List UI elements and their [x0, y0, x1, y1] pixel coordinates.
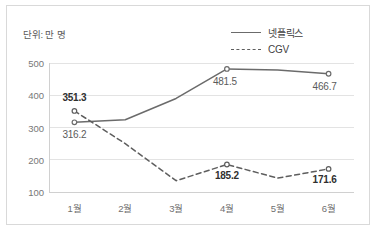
x-axis-tick-label: 2월: [103, 201, 147, 215]
y-axis-tick-label: 400: [14, 90, 44, 101]
chart-canvas: [7, 6, 371, 226]
y-axis-tick-label: 100: [14, 187, 44, 198]
data-point-label: 351.3: [62, 92, 86, 103]
y-axis-tick-label: 500: [14, 58, 44, 69]
plot-area: 1002003004005001월2월3월4월5월6월316.2481.5466…: [7, 6, 371, 226]
y-axis-tick-label: 300: [14, 122, 44, 133]
x-axis-tick-label: 3월: [154, 201, 198, 215]
data-point-label: 185.2: [215, 170, 239, 181]
x-axis-tick-label: 6월: [307, 201, 351, 215]
data-point-label: 466.7: [313, 81, 337, 92]
data-point-label: 481.5: [213, 76, 237, 87]
x-axis-tick-label: 1월: [52, 201, 96, 215]
data-point-label: 171.6: [313, 174, 337, 185]
x-axis-tick-label: 4월: [205, 201, 249, 215]
y-axis-tick-label: 200: [14, 154, 44, 165]
chart-frame: 단위: 만 명 넷플릭스 CGV 1002003004005001월2월3월4월…: [6, 5, 370, 225]
x-axis-tick-label: 5월: [256, 201, 300, 215]
data-point-label: 316.2: [62, 129, 86, 140]
